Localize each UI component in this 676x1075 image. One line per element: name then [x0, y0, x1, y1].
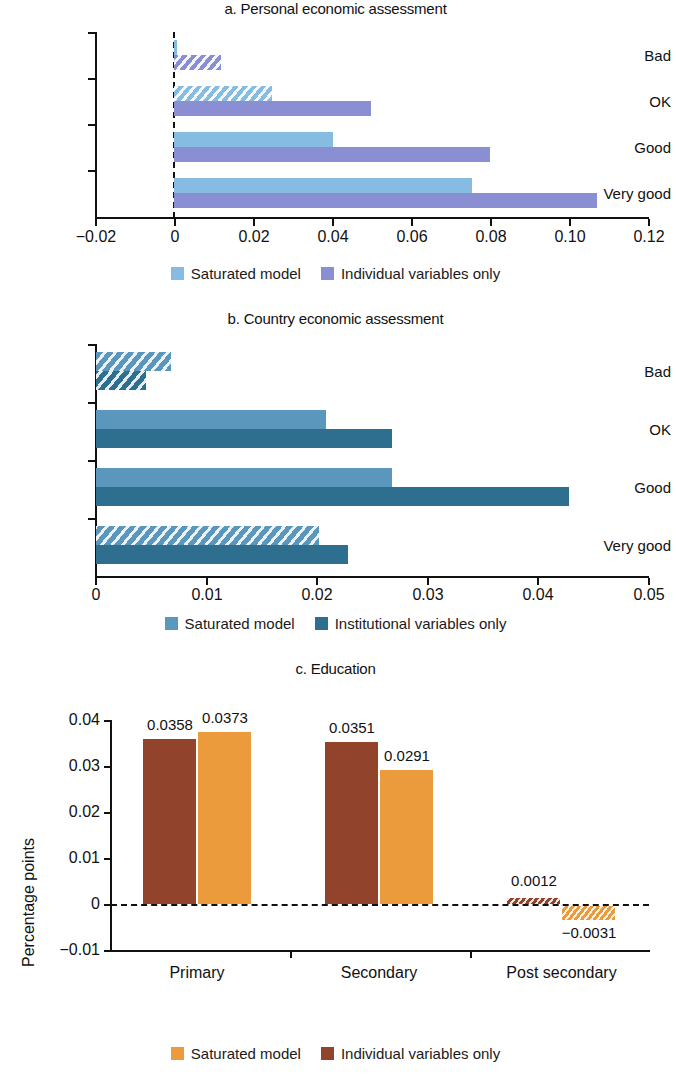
- panel-b-y-tick: [88, 518, 97, 520]
- panel-c-y-tick: [104, 950, 111, 952]
- panel-b-bar-institutional: [96, 487, 569, 506]
- legend-label: Saturated model: [191, 265, 301, 282]
- panel-a-x-tick-label: −0.02: [51, 228, 141, 246]
- panel-b-y-tick: [88, 460, 97, 462]
- panel-b-title: b. Country economic assessment: [0, 310, 671, 327]
- panel-a-plot-area: Bad OK Good Very good −0.02 0 0.02 0.04 …: [0, 28, 671, 233]
- panel-a-x-tick: [411, 219, 413, 226]
- legend-swatch-icon: [315, 617, 328, 630]
- panel-a-x-tick-label: 0.04: [288, 228, 378, 246]
- legend-swatch-icon: [321, 267, 334, 280]
- panel-c-y-axis-line: [110, 720, 112, 952]
- legend-swatch-icon: [165, 617, 178, 630]
- panel-a-bar-individual: [174, 55, 221, 70]
- panel-a-bar-saturated: [174, 86, 272, 101]
- panel-b-x-tick: [95, 578, 97, 585]
- panel-c-y-tick: [104, 904, 111, 906]
- panel-b-category-label: OK: [589, 421, 671, 438]
- panel-a-bar-saturated: [174, 40, 177, 55]
- panel-a-personal-economic-assessment: a. Personal economic assessment Bad OK G…: [0, 0, 671, 300]
- panel-a-y-tick: [88, 124, 97, 126]
- panel-b-x-tick-label: 0.03: [383, 586, 473, 604]
- panel-a-x-tick: [253, 219, 255, 226]
- panel-a-category-label: OK: [589, 93, 671, 110]
- panel-a-x-tick-label: 0.08: [446, 228, 536, 246]
- panel-c-bar-value-label: 0.0291: [361, 747, 453, 764]
- legend-item-saturated-model: Saturated model: [171, 1045, 301, 1062]
- panel-a-x-tick-label: 0.02: [209, 228, 299, 246]
- legend-item-institutional-variables-only: Institutional variables only: [315, 615, 507, 632]
- panel-c-y-tick-label: 0.03: [30, 757, 100, 775]
- panel-a-bar-individual: [174, 101, 371, 116]
- panel-c-group-separator: [470, 950, 472, 958]
- panel-c-y-tick: [104, 766, 111, 768]
- panel-a-bar-saturated: [174, 178, 472, 193]
- panel-c-y-tick-label: 0.04: [30, 711, 100, 729]
- panel-a-title: a. Personal economic assessment: [0, 0, 671, 17]
- legend-label: Individual variables only: [341, 265, 500, 282]
- panel-c-category-label: Secondary: [324, 964, 434, 982]
- panel-b-legend: Saturated model Institutional variables …: [0, 615, 671, 632]
- panel-c-category-label: Post secondary: [489, 964, 634, 982]
- legend-item-saturated-model: Saturated model: [171, 265, 301, 282]
- panel-a-y-tick: [88, 170, 97, 172]
- panel-b-x-tick-label: 0.05: [604, 586, 676, 604]
- panel-b-x-tick-label: 0.04: [493, 586, 583, 604]
- panel-c-y-tick-label: 0: [30, 895, 100, 913]
- panel-c-bar-individual: [143, 739, 196, 904]
- legend-item-saturated-model: Saturated model: [165, 615, 295, 632]
- legend-swatch-icon: [171, 267, 184, 280]
- legend-item-individual-variables-only: Individual variables only: [321, 1045, 500, 1062]
- panel-b-category-label: Very good: [589, 537, 671, 554]
- panel-c-category-label: Primary: [142, 964, 252, 982]
- panel-b-x-tick-label: 0.02: [272, 586, 362, 604]
- panel-c-bar-saturated: [198, 732, 251, 904]
- panel-b-bar-saturated: [96, 526, 319, 545]
- panel-b-x-tick: [316, 578, 318, 585]
- panel-b-plot-area: Bad OK Good Very good 0 0.01 0.02 0.03 0…: [0, 340, 671, 590]
- panel-a-x-tick: [332, 219, 334, 226]
- panel-c-y-tick-label: −0.01: [30, 941, 100, 959]
- panel-b-x-tick: [537, 578, 539, 585]
- panel-b-bar-saturated: [96, 410, 326, 429]
- legend-label: Individual variables only: [341, 1045, 500, 1062]
- panel-a-y-tick: [88, 32, 97, 34]
- panel-a-category-label: Very good: [589, 185, 671, 202]
- panel-b-x-axis-line: [95, 576, 649, 578]
- panel-a-x-tick: [95, 219, 97, 226]
- panel-b-bar-saturated: [96, 468, 392, 487]
- panel-b-x-tick-label: 0: [51, 586, 141, 604]
- panel-b-country-economic-assessment: b. Country economic assessment Bad OK Go…: [0, 310, 671, 640]
- panel-b-y-tick: [88, 344, 97, 346]
- panel-c-bar-individual: [325, 742, 378, 904]
- panel-c-bar-saturated: [562, 906, 615, 920]
- panel-a-x-tick-label: 0.06: [367, 228, 457, 246]
- panel-c-education: c. Education Percentage points 0.04 0.03…: [0, 660, 671, 1075]
- legend-label: Saturated model: [185, 615, 295, 632]
- panel-b-x-tick: [206, 578, 208, 585]
- panel-c-bar-value-label: 0.0351: [306, 719, 398, 736]
- panel-c-bar-saturated: [380, 770, 433, 904]
- panel-a-x-axis-line: [95, 217, 649, 219]
- panel-a-bar-individual: [174, 147, 490, 162]
- panel-a-x-tick: [648, 219, 650, 226]
- panel-a-bar-saturated: [174, 132, 333, 147]
- panel-c-group-separator: [290, 950, 292, 958]
- panel-b-x-tick: [648, 578, 650, 585]
- panel-a-legend: Saturated model Individual variables onl…: [0, 265, 671, 282]
- panel-c-bar-individual: [507, 898, 560, 904]
- panel-a-bar-individual: [174, 193, 597, 208]
- panel-a-x-tick-label: 0: [130, 228, 220, 246]
- panel-a-category-label: Good: [589, 139, 671, 156]
- panel-c-legend: Saturated model Individual variables onl…: [0, 1045, 671, 1062]
- panel-a-x-tick: [490, 219, 492, 226]
- panel-b-category-label: Bad: [589, 363, 671, 380]
- panel-c-plot-area: Percentage points 0.04 0.03 0.02 0.01 0 …: [0, 682, 671, 1022]
- panel-b-bar-saturated: [96, 352, 171, 371]
- panel-a-category-label: Bad: [589, 47, 671, 64]
- panel-b-bar-institutional: [96, 545, 348, 564]
- panel-c-bar-value-label: −0.0031: [543, 924, 635, 941]
- panel-b-x-tick-label: 0.01: [162, 586, 252, 604]
- panel-c-y-tick-label: 0.02: [30, 803, 100, 821]
- panel-a-x-tick: [569, 219, 571, 226]
